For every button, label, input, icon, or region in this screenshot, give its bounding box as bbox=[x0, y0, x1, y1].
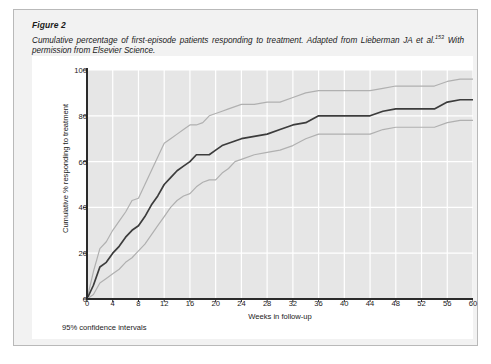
y-axis-tick-labels: 020406080100 bbox=[62, 56, 87, 339]
y-axis-tick-label: 100 bbox=[65, 66, 87, 75]
x-axis-tick-label: 28 bbox=[257, 299, 277, 308]
y-axis-tick-label: 80 bbox=[65, 112, 87, 121]
figure-label: Figure 2 bbox=[32, 20, 464, 30]
x-axis-tick-label: 0 bbox=[77, 299, 97, 308]
x-axis-tick-label: 52 bbox=[412, 299, 432, 308]
caption-citation-superscript: 153 bbox=[435, 34, 444, 40]
x-axis-tick-label: 56 bbox=[437, 299, 457, 308]
chart-plot-wrapper: Cumulative % responding to treatment Wee… bbox=[32, 56, 473, 339]
confidence-interval-note: 95% confidence intervals bbox=[62, 323, 146, 332]
chart-card: Cumulative % responding to treatment Wee… bbox=[32, 56, 473, 339]
x-axis-tick-label: 20 bbox=[206, 299, 226, 308]
x-axis-tick-label: 16 bbox=[180, 299, 200, 308]
x-axis-tick-label: 36 bbox=[309, 299, 329, 308]
caption-sentence-one: Cumulative percentage of first-episode p… bbox=[32, 36, 435, 45]
figure-panel: Figure 2 Cumulative percentage of first-… bbox=[13, 9, 478, 346]
line-chart-svg bbox=[32, 56, 473, 339]
x-axis-tick-label: 24 bbox=[231, 299, 251, 308]
x-axis-tick-label: 44 bbox=[360, 299, 380, 308]
y-axis-tick-label: 20 bbox=[65, 249, 87, 258]
x-axis-tick-label: 4 bbox=[103, 299, 123, 308]
figure-caption: Figure 2 Cumulative percentage of first-… bbox=[32, 20, 464, 57]
x-axis-title: Weeks in follow-up bbox=[87, 312, 473, 321]
x-axis-tick-label: 40 bbox=[334, 299, 354, 308]
y-axis-tick-label: 60 bbox=[65, 158, 87, 167]
x-axis-tick-label: 60 bbox=[463, 299, 483, 308]
x-axis-tick-label: 48 bbox=[386, 299, 406, 308]
x-axis-tick-labels: 04812162024283236404448525660 bbox=[32, 299, 473, 313]
x-axis-tick-label: 12 bbox=[154, 299, 174, 308]
x-axis-tick-label: 8 bbox=[128, 299, 148, 308]
x-axis-tick-label: 32 bbox=[283, 299, 303, 308]
y-axis-tick-label: 40 bbox=[65, 203, 87, 212]
figure-caption-text: Cumulative percentage of first-episode p… bbox=[32, 32, 464, 57]
